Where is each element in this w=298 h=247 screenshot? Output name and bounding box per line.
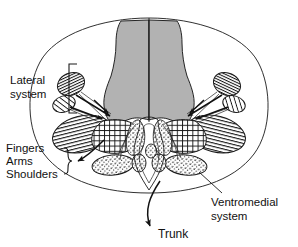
body-parts-label-line2: Arms xyxy=(6,155,33,167)
lateral-system-label-line1: Lateral xyxy=(10,74,45,86)
figure-root: Spinal cord cross-section: lateral and v… xyxy=(0,0,298,247)
body-parts-label-line3: Shoulders xyxy=(6,168,58,180)
trunk-label: Trunk xyxy=(158,227,189,241)
ventromedial-system-label-line1: Ventromedial xyxy=(211,196,278,208)
spinal-cord-diagram: Spinal cord cross-section: lateral and v… xyxy=(0,0,298,247)
body-parts-label-line1: Fingers xyxy=(6,142,45,154)
lateral-system-label-line2: system xyxy=(10,88,46,100)
ventromedial-system-label-line2: system xyxy=(211,210,247,222)
